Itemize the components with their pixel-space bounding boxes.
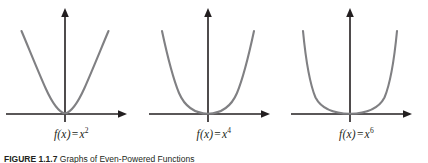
axes-x-fourth bbox=[149, 8, 270, 122]
figure-caption: FIGURE 1.1.7 Graphs of Even-Powered Func… bbox=[0, 155, 428, 163]
plot-x-sixth bbox=[285, 0, 428, 128]
plot-row bbox=[0, 0, 428, 128]
label-x-sixth-eq: = bbox=[356, 128, 365, 140]
plot-x-fourth bbox=[143, 0, 286, 128]
label-x-fourth-eq: = bbox=[213, 128, 222, 140]
figure-caption-text: FIGURE 1.1.7 Graphs of Even-Powered Func… bbox=[4, 155, 194, 163]
label-x-fourth-exponent: 4 bbox=[227, 126, 231, 135]
label-x-sixth-exponent: 6 bbox=[370, 126, 374, 135]
axes-x-squared bbox=[6, 8, 127, 122]
label-x-sixth: f(x)=x6 bbox=[285, 128, 428, 150]
plot-x-squared bbox=[0, 0, 143, 128]
figure-caption-body: Graphs of Even-Powered Functions bbox=[60, 155, 195, 163]
label-x-sixth-arg: (x) bbox=[343, 128, 356, 140]
x-axis-arrowhead bbox=[261, 110, 270, 118]
label-x-fourth-arg: (x) bbox=[200, 128, 213, 140]
x-axis-arrowhead bbox=[118, 110, 127, 118]
label-row: f(x)=x2 f(x)=x4 f(x)=x6 bbox=[0, 128, 428, 150]
y-axis-arrowhead bbox=[61, 8, 69, 17]
figure-panel: f(x)=x2 f(x)=x4 f(x)=x6 FIGURE 1.1.7 Gra… bbox=[0, 0, 428, 163]
x-axis-arrowhead bbox=[403, 110, 412, 118]
y-axis-arrowhead bbox=[346, 8, 354, 17]
label-x-fourth: f(x)=x4 bbox=[143, 128, 286, 150]
y-axis-arrowhead bbox=[204, 8, 212, 17]
label-x-squared-arg: (x) bbox=[57, 128, 70, 140]
figure-caption-label: FIGURE 1.1.7 bbox=[4, 155, 57, 163]
label-x-squared: f(x)=x2 bbox=[0, 128, 143, 150]
axes-x-sixth bbox=[291, 8, 412, 122]
label-x-squared-exponent: 2 bbox=[85, 126, 89, 135]
